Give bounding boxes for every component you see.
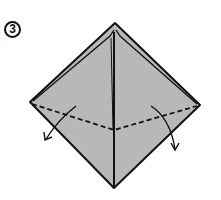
- origami-diagram: [0, 0, 221, 200]
